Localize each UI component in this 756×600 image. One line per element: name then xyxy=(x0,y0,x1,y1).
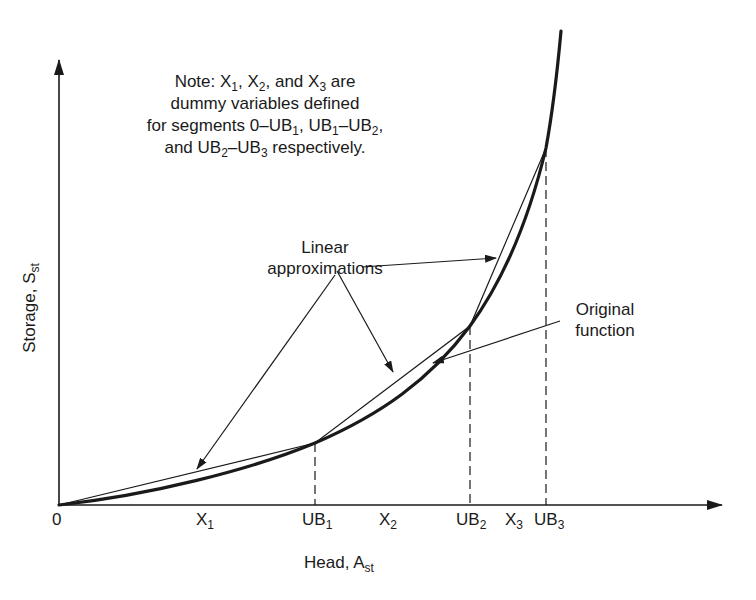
x-tick-x2: X2 xyxy=(379,510,397,530)
note-line-4: and UB2–UB3 respectively. xyxy=(80,137,450,159)
x-tick-x1: X1 xyxy=(196,510,214,530)
note-line-3: for segments 0–UB1, UB1–UB2, xyxy=(80,115,450,137)
x-tick-x3: X3 xyxy=(505,510,523,530)
x-tick-origin: 0 xyxy=(52,510,61,530)
arrow-linear-lower xyxy=(197,275,335,469)
arrow-original-function xyxy=(433,321,560,363)
x-axis-title: Head, Ast xyxy=(304,553,374,573)
linear-approximations-label: Linear approximations xyxy=(255,237,395,279)
linear-approximation-segments xyxy=(59,148,546,505)
x-tick-ub1: UB1 xyxy=(302,510,332,530)
note-text: Note: X1, X2, and X3 are dummy variables… xyxy=(80,71,450,159)
x-tick-ub3: UB3 xyxy=(534,510,564,530)
arrow-linear-middle xyxy=(337,271,393,372)
note-line-2: dummy variables defined xyxy=(80,93,450,115)
x-tick-ub2: UB2 xyxy=(456,510,486,530)
y-axis-title: Storage, Sst xyxy=(20,243,40,373)
original-function-label: Original function xyxy=(560,299,650,341)
note-line-1: Note: X1, X2, and X3 are xyxy=(80,71,450,93)
